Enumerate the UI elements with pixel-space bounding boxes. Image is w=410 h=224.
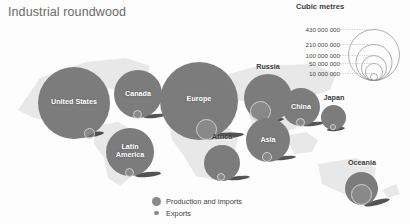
legend-label-production: Production and imports [166,197,242,206]
export-circle-canada[interactable] [133,110,142,119]
bubble-label-africa: Africa [196,133,248,141]
export-circle-asia[interactable] [262,152,272,162]
series-legend: Production and imports Exports [152,195,242,219]
export-circle-united-states[interactable] [84,128,95,139]
bubble-label-oceania: Oceania [334,159,390,167]
export-circle-japan[interactable] [330,124,336,130]
bubble-label-latin-america: Latin America [106,143,154,160]
bubble-label-united-states: United States [38,98,110,106]
legend-dot-production-icon [152,197,161,206]
size-legend-value-3: 50 000 000 [309,60,340,67]
legend-item-production[interactable]: Production and imports [152,195,242,207]
size-legend-value-0: 430 000 000 [306,26,340,33]
bubble-label-china: China [282,103,320,111]
legend-item-exports[interactable]: Exports [152,207,242,219]
export-circle-africa[interactable] [217,173,225,181]
size-legend: Cubic metres 430 000 000 210 000 000 100… [296,2,408,82]
export-circle-latin-america[interactable] [125,168,134,177]
bubble-label-asia: Asia [246,136,290,144]
legend-dot-exports-icon [154,211,159,216]
export-circle-oceania[interactable] [351,184,372,205]
export-circle-china[interactable] [296,118,305,127]
chart-canvas: Industrial roundwood United States Canad… [0,0,410,224]
bubble-label-canada: Canada [114,90,162,98]
bubble-label-europe: Europe [160,95,238,103]
bubble-label-japan: Japan [311,94,357,102]
size-legend-value-4: 10 000 000 [309,70,340,77]
size-legend-value-2: 100 000 000 [306,52,340,59]
legend-label-exports: Exports [166,209,191,218]
size-legend-value-1: 210 000 000 [306,41,340,48]
page-title: Industrial roundwood [8,5,126,19]
bubble-label-russia: Russia [238,63,298,71]
